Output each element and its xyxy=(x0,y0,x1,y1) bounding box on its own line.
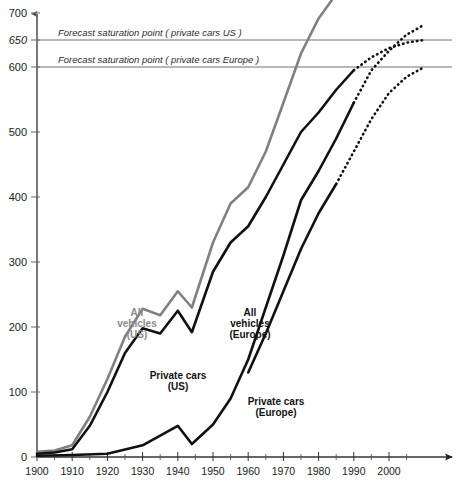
y-tick-label: 400 xyxy=(9,191,27,203)
chart-svg: Forecast saturation point ( all vehicles… xyxy=(0,0,466,494)
vehicle-ownership-chart: Forecast saturation point ( all vehicles… xyxy=(0,0,466,494)
series-historic-line xyxy=(37,103,354,456)
saturation-label: Forecast saturation point ( private cars… xyxy=(58,27,242,38)
y-tick-label: 650 xyxy=(9,34,28,46)
x-tick-label: 1950 xyxy=(201,465,225,477)
series-label: Private cars(Europe) xyxy=(248,396,305,418)
x-tick-label: 1970 xyxy=(272,465,296,477)
saturation-annotation-group: Forecast saturation point ( all vehicles… xyxy=(58,0,259,65)
series-forecast-line xyxy=(354,25,424,103)
y-tick-label: 700 xyxy=(9,7,27,19)
y-tick-label: 600 xyxy=(9,61,27,73)
saturation-label: Forecast saturation point ( private cars… xyxy=(58,54,259,65)
series-historic-line xyxy=(37,70,354,454)
series-historic-line xyxy=(248,184,336,373)
x-tick-label: 1910 xyxy=(61,465,85,477)
y-tick-label: 100 xyxy=(9,386,27,398)
x-tick-label: 1900 xyxy=(25,465,49,477)
series-label-group: Allvehicles(US)Private cars(US)Allvehicl… xyxy=(117,307,305,418)
y-tick-label: 200 xyxy=(9,321,27,333)
y-tick-label: 300 xyxy=(9,256,27,268)
series-label: Private cars(US) xyxy=(150,370,207,392)
x-tick-label: 1990 xyxy=(342,465,366,477)
x-tick-label: 1930 xyxy=(131,465,155,477)
y-tick-group: 0100200300400500600650700750800850 xyxy=(9,0,40,463)
x-tick-label: 1960 xyxy=(237,465,261,477)
y-tick-label: 0 xyxy=(21,451,27,463)
series-forecast-line xyxy=(354,40,424,70)
series-path-group xyxy=(37,0,424,456)
series-historic-line xyxy=(37,0,354,452)
y-tick-label: 500 xyxy=(9,126,27,138)
x-tick-label: 1980 xyxy=(307,465,331,477)
x-tick-label: 2000 xyxy=(377,465,401,477)
x-tick-label: 1920 xyxy=(96,465,120,477)
series-forecast-line xyxy=(336,67,424,184)
x-tick-label: 1940 xyxy=(166,465,190,477)
axes-group xyxy=(37,14,452,457)
